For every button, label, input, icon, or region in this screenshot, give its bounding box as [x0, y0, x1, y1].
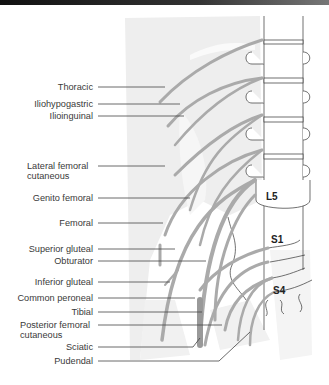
label-ilioinguinal: Ilioinguinal [50, 111, 93, 121]
label-thoracic: Thoracic [58, 82, 93, 92]
label-sciatic: Sciatic [66, 342, 93, 352]
label-pudendal: Pudendal [54, 356, 93, 366]
vertebra-label-s1: S1 [271, 234, 283, 245]
label-posterior-femoral-cutaneous: Posterior femoral cutaneous [20, 320, 90, 340]
vertebra-label-l5: L5 [266, 191, 278, 202]
label-inferior-gluteal: Inferior gluteal [35, 277, 93, 287]
label-line2: cutaneous [27, 171, 88, 181]
label-common-peroneal: Common peroneal [17, 293, 93, 303]
label-tibial: Tibial [71, 307, 93, 317]
label-line1: Posterior femoral [20, 320, 90, 330]
label-obturator: Obturator [54, 256, 93, 266]
label-superior-gluteal: Superior gluteal [29, 244, 93, 254]
label-lateral-femoral-cutaneous: Lateral femoral cutaneous [27, 161, 88, 181]
label-femoral: Femoral [59, 218, 93, 228]
vertebra-label-s4: S4 [273, 285, 285, 296]
label-line2: cutaneous [20, 330, 90, 340]
label-line1: Lateral femoral [27, 161, 88, 171]
label-genito-femoral: Genito femoral [33, 193, 93, 203]
label-iliohypogastric: Iliohypogastric [34, 99, 93, 109]
